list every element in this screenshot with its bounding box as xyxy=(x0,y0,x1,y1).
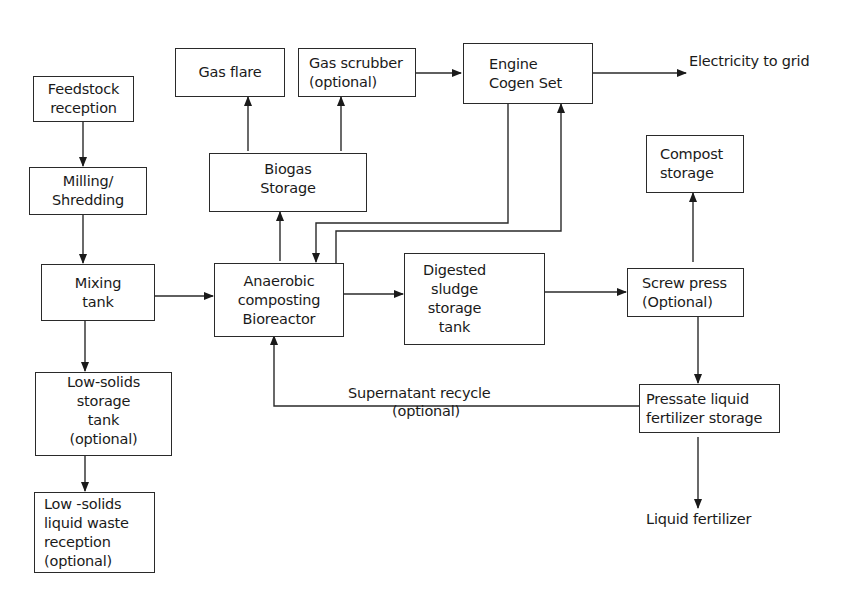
node-gas-flare: Gas flare xyxy=(175,48,285,97)
node-label-line: reception xyxy=(50,99,117,118)
node-label-line: Milling/ xyxy=(63,172,113,191)
node-label-line: composting xyxy=(238,291,321,310)
node-engine-cogen-set: Engine Cogen Set xyxy=(463,43,593,104)
node-label-line: tank xyxy=(439,318,470,337)
node-label-line: Pressate liquid xyxy=(646,390,749,409)
node-label-line: Anaerobic xyxy=(244,272,315,291)
node-label-line: Engine xyxy=(489,55,538,74)
node-label-line: Mixing xyxy=(75,274,121,293)
node-label-line: Screw press xyxy=(642,274,727,293)
node-milling-shredding: Milling/ Shredding xyxy=(29,167,147,215)
node-gas-scrubber: Gas scrubber (optional) xyxy=(298,48,416,97)
node-label-line: tank xyxy=(82,293,113,312)
arrow-anaerobic-to-engine xyxy=(336,104,561,263)
node-label-line: (Optional) xyxy=(642,293,713,312)
node-label-line: (optional) xyxy=(44,552,112,571)
node-label-line: Gas scrubber xyxy=(309,54,403,73)
node-low-solids-storage-tank: Low-solids storage tank (optional) xyxy=(35,372,172,456)
node-feedstock-reception: Feedstock reception xyxy=(33,76,134,122)
node-label-line: Biogas xyxy=(264,160,311,179)
node-label-line: sludge xyxy=(431,280,478,299)
node-label-line: Storage xyxy=(260,179,315,198)
node-label-line: storage xyxy=(77,392,131,411)
node-pressate-fertilizer-storage: Pressate liquid fertilizer storage xyxy=(639,384,780,433)
node-label-line: Shredding xyxy=(52,191,124,210)
node-label-line: tank xyxy=(88,411,119,430)
node-label-line: (optional) xyxy=(309,73,377,92)
node-compost-storage: Compost storage xyxy=(646,135,744,193)
node-mixing-tank: Mixing tank xyxy=(41,264,155,321)
node-label-line: Gas flare xyxy=(198,63,261,82)
node-label-line: (optional) xyxy=(69,430,137,449)
label-supernatant-optional: (optional) xyxy=(392,402,460,421)
node-label-line: Compost xyxy=(660,145,723,164)
node-biogas-storage: Biogas Storage xyxy=(209,153,367,212)
node-screw-press: Screw press (Optional) xyxy=(627,268,744,317)
node-label-line: storage xyxy=(660,164,714,183)
node-label-line: fertilizer storage xyxy=(646,409,762,428)
label-electricity-to-grid: Electricity to grid xyxy=(689,52,809,71)
node-label-line: Digested xyxy=(423,261,486,280)
label-liquid-fertilizer: Liquid fertilizer xyxy=(646,510,751,529)
node-label-line: reception xyxy=(44,533,111,552)
node-anaerobic-bioreactor: Anaerobic composting Bioreactor xyxy=(214,263,344,337)
node-digested-sludge-tank: Digested sludge storage tank xyxy=(404,253,545,345)
node-label-line: Cogen Set xyxy=(489,74,562,93)
node-label-line: Feedstock xyxy=(48,80,119,99)
node-label-line: storage xyxy=(428,299,482,318)
node-label-line: Low-solids xyxy=(67,373,140,392)
node-label-line: liquid waste xyxy=(44,514,129,533)
node-label-line: Bioreactor xyxy=(243,310,316,329)
node-low-solids-liquid-reception: Low -solids liquid waste reception (opti… xyxy=(34,492,155,573)
label-supernatant-recycle: Supernatant recycle xyxy=(348,384,491,403)
node-label-line: Low -solids xyxy=(44,495,121,514)
